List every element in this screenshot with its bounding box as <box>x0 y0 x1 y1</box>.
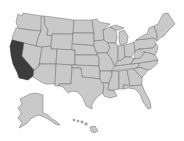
state-kansas[interactable] <box>75 55 99 66</box>
state-utah[interactable] <box>39 46 57 66</box>
us-map <box>0 0 184 141</box>
state-michigan[interactable] <box>119 30 128 45</box>
state-ohio[interactable] <box>124 42 135 57</box>
state-nebraska[interactable] <box>72 44 97 55</box>
state-alaska[interactable] <box>18 93 60 128</box>
state-new-england[interactable] <box>154 13 175 41</box>
state-north-dakota[interactable] <box>73 20 94 33</box>
state-montana[interactable] <box>44 16 74 36</box>
state-hawaii[interactable] <box>73 119 98 133</box>
state-florida[interactable] <box>123 85 151 109</box>
state-new-mexico[interactable] <box>55 64 72 86</box>
state-colorado[interactable] <box>56 49 75 65</box>
state-wyoming[interactable] <box>51 34 73 50</box>
